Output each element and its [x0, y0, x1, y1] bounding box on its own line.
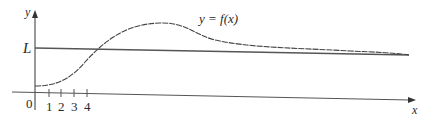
x-axis-label: x	[412, 104, 417, 116]
y-axis-arrow-icon	[32, 10, 38, 18]
y-axis-label: y	[25, 6, 30, 18]
x-tick-label-4: 4	[84, 100, 91, 113]
asymptote-label: L	[23, 41, 31, 56]
x-tick-label-1: 1	[46, 100, 53, 113]
origin-label: 0	[26, 97, 33, 110]
x-tick-label-3: 3	[71, 100, 78, 113]
curve-label: y = f(x)	[199, 12, 238, 25]
x-tick-label-2: 2	[58, 100, 65, 113]
